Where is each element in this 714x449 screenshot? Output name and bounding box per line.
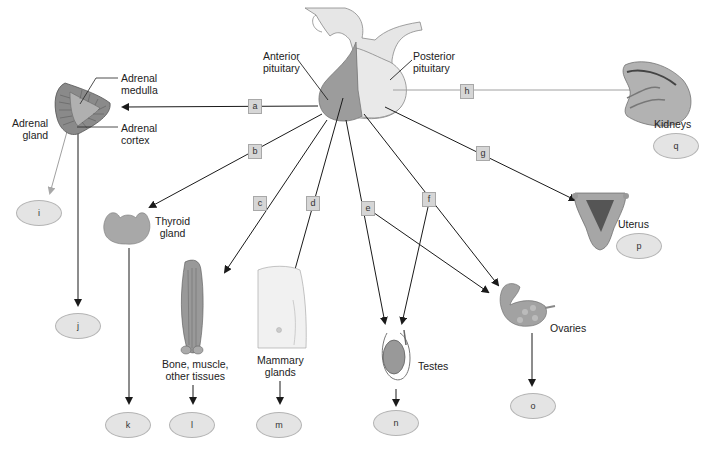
adrenal-gland-illustration — [55, 78, 118, 135]
uterus-label: Uterus — [618, 218, 649, 230]
anterior-pituitary-lobe — [319, 42, 362, 121]
posterior-pituitary-lobe — [356, 48, 406, 118]
answer-oval-n[interactable]: n — [373, 410, 419, 436]
diagram-canvas — [0, 0, 714, 449]
kidneys-label: Kidneys — [654, 118, 691, 130]
posterior-pituitary-label: Posteriorpituitary — [413, 50, 455, 74]
hormone-box-d[interactable]: d — [306, 196, 320, 211]
answer-oval-o[interactable]: o — [510, 393, 556, 419]
testes-illustration — [382, 330, 410, 380]
testes-label: Testes — [418, 360, 448, 372]
hormone-box-g[interactable]: g — [476, 146, 490, 161]
answer-oval-p[interactable]: p — [616, 233, 662, 259]
hormone-box-f[interactable]: f — [422, 192, 436, 207]
thyroid-label: Thyroidgland — [155, 215, 190, 239]
hormone-box-e[interactable]: e — [361, 201, 375, 216]
ovaries-label: Ovaries — [550, 322, 586, 334]
answer-oval-k[interactable]: k — [105, 412, 151, 438]
answer-oval-q[interactable]: q — [653, 133, 699, 159]
answer-oval-j[interactable]: j — [55, 313, 101, 339]
muscle-bone-illustration — [181, 260, 203, 354]
anterior-pituitary-label: Anteriorpituitary — [263, 50, 300, 74]
kidney-illustration — [623, 62, 691, 126]
mammary-label: Mammaryglands — [257, 354, 304, 378]
adrenal-gland-label: Adrenalgland — [12, 117, 48, 141]
thyroid-illustration — [104, 213, 150, 244]
answer-oval-m[interactable]: m — [256, 412, 302, 438]
answer-oval-i[interactable]: i — [16, 200, 62, 226]
hormone-box-a[interactable]: a — [248, 99, 262, 114]
ovaries-illustration — [500, 284, 555, 327]
hormone-box-c[interactable]: c — [253, 196, 267, 211]
hormone-box-h[interactable]: h — [460, 84, 474, 99]
answer-oval-l[interactable]: l — [169, 412, 215, 438]
mammary-illustration — [258, 266, 306, 348]
pituitary-gland — [305, 8, 422, 121]
adrenal-cortex-label: Adrenalcortex — [121, 122, 157, 146]
endocrine-diagram: Anteriorpituitary Posteriorpituitary a b… — [0, 0, 714, 449]
bone-muscle-label: Bone, muscle,other tissues — [162, 358, 229, 382]
adrenal-medulla-label: Adrenalmedulla — [121, 72, 158, 96]
hormone-box-b[interactable]: b — [248, 144, 262, 159]
